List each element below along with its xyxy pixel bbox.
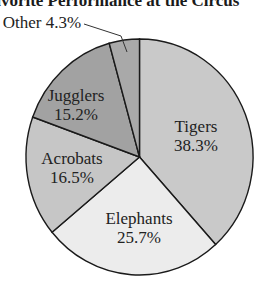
label-tigers-name: Tigers [175,117,218,136]
label-elephants-name: Elephants [105,209,172,228]
label-acrobats-name: Acrobats [41,149,102,168]
pie-chart: Tigers 38.3% Elephants 25.7% Acrobats 16… [0,0,269,283]
label-tigers-pct: 38.3% [174,136,218,155]
label-acrobats-pct: 16.5% [50,168,94,187]
label-jugglers-name: Jugglers [48,86,105,105]
label-jugglers-pct: 15.2% [54,105,98,124]
label-other: Other 4.3% [3,13,81,32]
label-elephants-pct: 25.7% [117,228,161,247]
